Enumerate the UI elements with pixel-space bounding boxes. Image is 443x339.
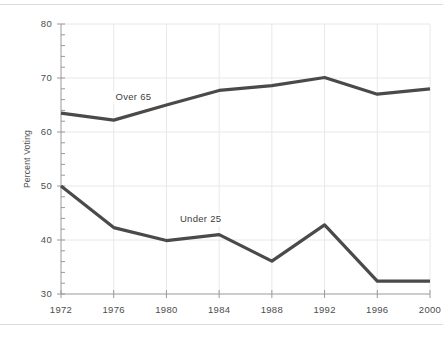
x-axis-tick-label: 1988 [261, 304, 283, 315]
x-axis-tick-labels-group: 19721976198019841988199219962000 [50, 304, 441, 315]
x-axis-tick-label: 1992 [313, 304, 335, 315]
gridlines-group [61, 24, 430, 294]
y-axis-minor-ticks-group [61, 35, 65, 283]
x-axis-tick-label: 1984 [208, 304, 230, 315]
y-axis-tick-label: 80 [41, 18, 52, 29]
data-series-group [61, 77, 430, 281]
y-axis-tick-label: 70 [41, 72, 52, 83]
x-axis-tick-label: 1972 [50, 304, 72, 315]
y-axis-tick-label: 40 [41, 234, 52, 245]
y-axis-tick-label: 30 [41, 288, 52, 299]
chart-figure: 304050607080 197219761980198419881992199… [0, 0, 443, 339]
y-axis-title: Percent Voting [22, 130, 32, 188]
x-axis-tick-label: 1980 [155, 304, 177, 315]
x-axis-tick-label: 1996 [366, 304, 388, 315]
series-annotation-under-25: Under 25 [180, 213, 221, 224]
series-line-under-25 [61, 186, 430, 281]
x-axis-tick-label: 1976 [103, 304, 125, 315]
y-axis-tick-label: 50 [41, 180, 52, 191]
line-chart-plot-area: 304050607080 197219761980198419881992199… [0, 0, 443, 339]
x-axis-tick-label: 2000 [419, 304, 441, 315]
y-axis-tick-label: 60 [41, 126, 52, 137]
y-axis-tick-labels-group: 304050607080 [41, 18, 52, 299]
series-annotations-group: Over 65Under 25 [111, 91, 225, 227]
series-annotation-over-65: Over 65 [116, 91, 152, 102]
